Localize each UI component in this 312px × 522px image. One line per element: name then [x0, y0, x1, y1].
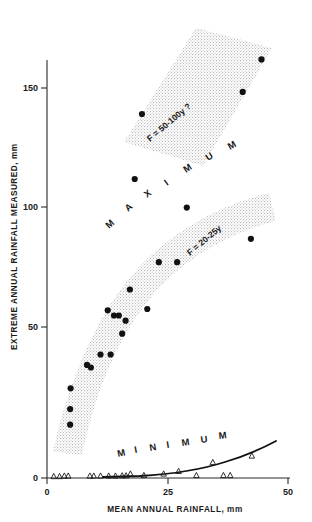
data-point [97, 351, 103, 357]
maximum-letter-1: A [122, 201, 134, 214]
y-tick-label-50: 50 [28, 322, 38, 332]
maximum-letter-2: X [141, 187, 153, 200]
chart-canvas: 150 100 50 0 0 25 50 EXTREME ANNUAL RAIN… [0, 0, 312, 522]
data-point [65, 473, 71, 478]
data-point [68, 385, 74, 391]
lower-band-region [53, 193, 276, 455]
y-tick-label-0: 0 [33, 473, 38, 483]
minimum-letter-1: I [133, 444, 138, 455]
x-tick-label-50: 50 [283, 487, 293, 497]
minimum-letter-2: N [148, 441, 157, 453]
upper-band-region [124, 28, 272, 166]
data-point [91, 473, 97, 478]
minimum-region-label: M I N I M U M [116, 429, 227, 459]
maximum-letter-0: M [103, 217, 116, 231]
maximum-letter-6: M [226, 138, 238, 152]
maximum-letter-4: M [181, 161, 194, 175]
y-tick-label-100: 100 [23, 202, 38, 212]
data-point [227, 472, 233, 477]
data-point [144, 306, 150, 312]
data-point [194, 472, 200, 477]
data-point [258, 56, 264, 62]
x-axis-title: MEAN ANNUAL RAINFALL, mm [107, 505, 243, 514]
data-point [98, 473, 104, 478]
y-tick-label-150: 150 [23, 83, 38, 93]
data-point [119, 331, 125, 337]
data-point [122, 318, 128, 324]
data-point [116, 312, 122, 318]
maximum-letter-3: I [162, 177, 171, 187]
minimum-letter-3: I [166, 439, 170, 450]
rainfall-scatter-figure: 150 100 50 0 0 25 50 EXTREME ANNUAL RAIN… [0, 0, 312, 522]
data-point [184, 205, 190, 211]
data-point [156, 259, 162, 265]
data-point [127, 286, 133, 292]
data-point [67, 406, 73, 412]
minimum-letter-4: M [181, 436, 190, 448]
data-point [174, 259, 180, 265]
data-point [139, 111, 145, 117]
data-point [105, 307, 111, 313]
x-tick-label-25: 25 [163, 487, 173, 497]
data-point [221, 472, 227, 477]
y-axis-title: EXTREME ANNUAL RAINFALL MEASURED, mm [10, 143, 19, 350]
data-point [248, 236, 254, 242]
data-point [128, 471, 134, 476]
data-point [108, 351, 114, 357]
data-point [88, 364, 94, 370]
x-tick-label-0: 0 [44, 487, 49, 497]
data-point [240, 89, 246, 95]
data-point [210, 459, 216, 464]
minimum-letter-6: M [218, 429, 227, 441]
minimum-letter-0: M [116, 447, 126, 459]
data-point [67, 422, 73, 428]
minimum-letter-5: U [200, 433, 208, 445]
data-point [132, 176, 138, 182]
